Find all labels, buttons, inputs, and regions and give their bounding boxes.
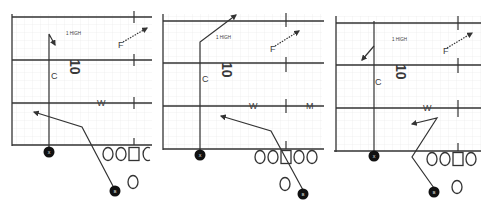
free-safety-label: F bbox=[118, 40, 124, 50]
panel-3: 1 HIGH 10 C F W X B bbox=[334, 16, 481, 198]
defense-number: 10 bbox=[393, 64, 409, 80]
corner-label: C bbox=[202, 74, 209, 84]
free-safety-label: F bbox=[443, 46, 449, 56]
coverage-label: 1 HIGH bbox=[66, 31, 81, 36]
mike-label: M bbox=[306, 101, 314, 111]
corner-label: C bbox=[51, 71, 58, 81]
offensive-line bbox=[255, 151, 317, 164]
receiver-b: B bbox=[298, 189, 309, 200]
panel-2: 1 HIGH 10 C F W M X B bbox=[163, 13, 324, 200]
panel-1: 1 HIGH 10 C F W X B bbox=[12, 11, 152, 197]
quarterback bbox=[452, 181, 462, 194]
corner-label: C bbox=[375, 77, 382, 87]
svg-text:B: B bbox=[433, 190, 436, 195]
play-diagrams: 1 HIGH 10 C F W X B bbox=[0, 0, 488, 215]
will-label: W bbox=[97, 98, 106, 108]
coverage-label: 1 HIGH bbox=[216, 35, 231, 40]
svg-text:B: B bbox=[114, 189, 117, 194]
svg-text:X: X bbox=[199, 153, 202, 158]
field-grid bbox=[336, 16, 481, 151]
svg-text:X: X bbox=[48, 150, 51, 155]
receiver-x: X bbox=[44, 147, 55, 158]
offensive-line bbox=[103, 148, 150, 161]
defense-number: 10 bbox=[67, 59, 83, 75]
coverage-label: 1 HIGH bbox=[392, 37, 407, 42]
offensive-line bbox=[427, 153, 476, 166]
defense-number: 10 bbox=[219, 62, 235, 78]
field-grid bbox=[163, 14, 322, 149]
quarterback bbox=[128, 176, 138, 189]
receiver-b: B bbox=[110, 186, 121, 197]
receiver-b: B bbox=[429, 187, 440, 198]
free-safety-label: F bbox=[270, 44, 276, 54]
svg-text:B: B bbox=[302, 192, 305, 197]
quarterback bbox=[280, 178, 290, 191]
will-label: W bbox=[249, 101, 258, 111]
receiver-x: X bbox=[369, 151, 380, 162]
receiver-x: X bbox=[195, 150, 206, 161]
svg-text:X: X bbox=[373, 154, 376, 159]
will-label: W bbox=[423, 103, 432, 113]
field-grid bbox=[12, 14, 152, 145]
